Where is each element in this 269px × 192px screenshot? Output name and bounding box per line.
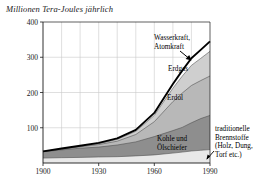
x-tick-1990: 1990 xyxy=(203,167,218,176)
trad-label-line1: traditionelle xyxy=(215,125,250,133)
chart-canvas: 400 300 200 100 1900 1930 1960 1990 Wass… xyxy=(0,0,269,192)
kohle-label-line2: Ölschiefer xyxy=(157,143,188,152)
y-tick-300: 300 xyxy=(27,53,39,62)
wasserkraft-label-line2: Atomkraft xyxy=(154,43,184,51)
trad-label-line2: Brennstoffe xyxy=(215,134,249,142)
erdgas-label: Erdgas xyxy=(168,65,188,73)
trad-label-line3: (Holz, Dung, xyxy=(215,142,253,150)
erdoel-label: Erdöl xyxy=(167,94,183,102)
y-tick-400: 400 xyxy=(27,18,39,27)
x-tick-1900: 1900 xyxy=(36,167,51,176)
trad-label-line4: Torf etc.) xyxy=(215,151,242,159)
y-tick-100: 100 xyxy=(27,124,39,133)
x-tick-1960: 1960 xyxy=(147,167,162,176)
x-tick-1930: 1930 xyxy=(91,167,106,176)
wasserkraft-label-line1: Wasserkraft, xyxy=(154,34,190,42)
energy-consumption-area-chart: Millionen Tera-Joules jährlich xyxy=(0,0,269,192)
kohle-label-line1: Kohle und xyxy=(157,135,188,143)
y-tick-200: 200 xyxy=(27,89,39,98)
